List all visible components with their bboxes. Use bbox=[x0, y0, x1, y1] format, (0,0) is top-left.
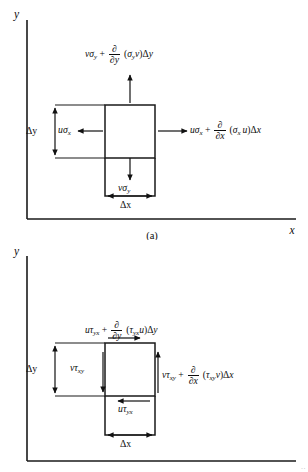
panel-a-right-eq-lead: uσ bbox=[190, 124, 200, 135]
panel-b-top-eq-tail: (τyxu)Δy bbox=[126, 324, 157, 335]
panel-a-top-eq-lead-sub: y bbox=[94, 53, 97, 61]
fraction-numerator: ∂ bbox=[188, 365, 199, 375]
panel-b-right-eq-operator: + bbox=[178, 369, 183, 380]
figure-root: y x (a) vσy + ∂ ∂y (σyv)Δy uσx + ∂ ∂x (σ… bbox=[0, 0, 308, 472]
panel-a-right-eq-fraction: ∂ ∂x bbox=[214, 120, 225, 142]
panel-a-left-face-label: uσx bbox=[58, 124, 71, 137]
panel-b-y-axis-label: y bbox=[13, 245, 20, 258]
panel-b-top-eq-operator: + bbox=[102, 324, 107, 335]
fraction-numerator: ∂ bbox=[109, 44, 120, 54]
panel-a-top-equation: vσy + ∂ ∂y (σyv)Δy bbox=[85, 44, 153, 66]
panel-a-element-box bbox=[55, 105, 155, 196]
panel-a-right-eq-lead-sub: x bbox=[200, 129, 203, 137]
fraction-denominator: ∂y bbox=[111, 331, 122, 341]
panel-b-top-eq-lead: uτ bbox=[85, 324, 93, 335]
panel-a-top-eq-fraction: ∂ ∂y bbox=[109, 44, 120, 66]
panel-b-graphics: y bbox=[0, 240, 308, 472]
panel-a-delta-x-label: Δx bbox=[120, 199, 131, 210]
panel-b-axes bbox=[27, 256, 296, 461]
panel-a-top-eq-lead: vσ bbox=[85, 48, 94, 59]
panel-b-right-eq-lead-sub: xy bbox=[170, 374, 176, 382]
panel-b-delta-y-label: Δy bbox=[26, 363, 37, 374]
panel-a-right-eq-operator: + bbox=[205, 124, 210, 135]
fraction-numerator: ∂ bbox=[214, 120, 225, 130]
panel-a-delta-y-label: Δy bbox=[26, 125, 37, 136]
panel-a-caption: (a) bbox=[146, 230, 158, 240]
panel-a-y-axis-label: y bbox=[13, 8, 20, 21]
page-edge-mark: ·· bbox=[301, 466, 306, 472]
fraction-denominator: ∂x bbox=[214, 131, 225, 141]
panel-b-inner-face-label: vτxy bbox=[70, 362, 84, 375]
panel-b-right-eq-tail: (τxyv)Δx bbox=[203, 369, 234, 380]
fraction-numerator: ∂ bbox=[111, 320, 122, 330]
panel-b-right-eq-fraction: ∂ ∂x bbox=[188, 365, 199, 387]
panel-a-right-eq-tail: (σx u)Δx bbox=[229, 124, 260, 135]
panel-a-graphics: y x (a) bbox=[0, 0, 308, 240]
panel-b-element-box bbox=[55, 343, 155, 435]
panel-b-bottom-face-label: uτyx bbox=[118, 403, 133, 416]
panel-b-top-equation: uτyx + ∂ ∂y (τyxu)Δy bbox=[85, 320, 158, 342]
panel-b-right-eq-lead: vτ bbox=[162, 369, 170, 380]
panel-b-top-eq-lead-sub: yx bbox=[93, 329, 99, 337]
fraction-denominator: ∂x bbox=[188, 376, 199, 386]
panel-a-top-eq-operator: + bbox=[100, 48, 105, 59]
panel-b-right-equation: vτxy + ∂ ∂x (τxyv)Δx bbox=[162, 365, 234, 387]
panel-a-bottom-face-label: vσy bbox=[118, 182, 130, 195]
panel-b-delta-x-label: Δx bbox=[120, 438, 131, 449]
panel-a-x-axis-label: x bbox=[288, 224, 295, 236]
panel-a-right-equation: uσx + ∂ ∂x (σx u)Δx bbox=[190, 120, 261, 142]
panel-b-top-eq-fraction: ∂ ∂y bbox=[111, 320, 122, 342]
fraction-denominator: ∂y bbox=[109, 55, 120, 65]
panel-a-top-eq-tail: (σyv)Δy bbox=[124, 48, 153, 59]
